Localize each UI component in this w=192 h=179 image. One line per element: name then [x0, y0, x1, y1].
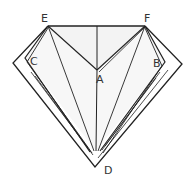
label-E: E: [41, 12, 48, 25]
label-D: D: [104, 164, 112, 177]
label-F: F: [144, 12, 150, 25]
label-C: C: [30, 55, 38, 68]
label-A: A: [96, 73, 104, 86]
label-B: B: [153, 57, 161, 70]
diagram-canvas: E F A C B D: [0, 0, 192, 179]
